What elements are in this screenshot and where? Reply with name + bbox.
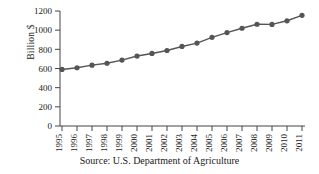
x-axis-ticks: 1995199619971998199920002001200220032004… (54, 126, 304, 152)
data-point (89, 63, 94, 68)
data-markers (59, 13, 304, 72)
x-tick-label: 2008 (249, 134, 259, 153)
x-tick-label: 2007 (234, 134, 244, 153)
x-tick-label: 2003 (174, 134, 184, 153)
x-tick-label: 2006 (219, 134, 229, 153)
data-point (224, 30, 229, 35)
data-point (134, 53, 139, 58)
x-tick-label: 1996 (69, 134, 79, 153)
data-point (104, 61, 109, 66)
data-line (62, 15, 302, 69)
x-tick-label: 2005 (204, 134, 214, 153)
x-tick-label: 2004 (189, 134, 199, 153)
data-point (209, 35, 214, 40)
line-chart-plot: 020040060080010001200 199519961997199819… (0, 0, 319, 155)
y-tick-label: 600 (39, 64, 53, 74)
x-tick-label: 2009 (264, 134, 274, 153)
x-tick-label: 2001 (144, 134, 154, 152)
data-point (59, 67, 64, 72)
source-caption: Source: U.S. Department of Agriculture (0, 155, 319, 166)
y-tick-label: 200 (39, 102, 53, 112)
x-tick-label: 1999 (114, 134, 124, 153)
data-point (74, 65, 79, 70)
data-point (179, 44, 184, 49)
chart-figure: Billion $ 020040060080010001200 19951996… (0, 0, 319, 174)
data-point (119, 57, 124, 62)
y-tick-label: 1200 (34, 6, 53, 16)
data-point (269, 22, 274, 27)
y-tick-label: 0 (48, 121, 53, 131)
x-tick-label: 1995 (54, 134, 64, 153)
data-point (299, 13, 304, 18)
x-tick-label: 2011 (294, 134, 304, 152)
data-point (284, 18, 289, 23)
y-tick-label: 400 (39, 83, 53, 93)
x-tick-label: 2010 (279, 134, 289, 153)
x-tick-label: 1998 (99, 134, 109, 153)
y-tick-label: 800 (39, 45, 53, 55)
x-tick-label: 2000 (129, 134, 139, 153)
data-point (164, 48, 169, 53)
x-tick-label: 2002 (159, 134, 169, 152)
data-point (254, 22, 259, 27)
data-point (239, 26, 244, 31)
y-tick-label: 1000 (34, 25, 53, 35)
data-point (149, 51, 154, 56)
data-point (194, 41, 199, 46)
y-axis-ticks: 020040060080010001200 (34, 6, 60, 131)
x-tick-label: 1997 (84, 134, 94, 153)
